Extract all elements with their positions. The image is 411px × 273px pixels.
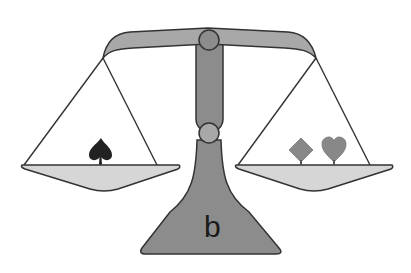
left-pan <box>21 165 179 191</box>
beam-pivot <box>199 30 219 50</box>
spade-icon <box>89 138 112 165</box>
base-label: b <box>204 212 221 242</box>
diamond-icon <box>289 138 313 165</box>
right-pan <box>235 165 392 191</box>
column-joint <box>199 123 219 143</box>
heart-icon <box>322 137 346 165</box>
left-pan-strings <box>24 58 157 165</box>
